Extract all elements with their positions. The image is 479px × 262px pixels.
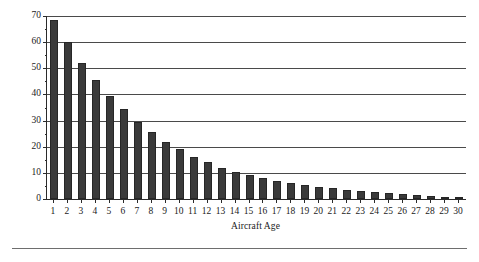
x-tick-15 <box>249 199 250 203</box>
bar <box>273 181 281 199</box>
x-tick-label-14: 14 <box>230 205 240 218</box>
bar <box>50 20 58 199</box>
x-tick-label-5: 5 <box>106 205 111 218</box>
x-tick-label-17: 17 <box>272 205 282 218</box>
y-tick-label-60: 60 <box>32 37 42 47</box>
bar <box>148 132 156 199</box>
x-tick-29 <box>444 199 445 203</box>
x-tick-24 <box>374 199 375 203</box>
bar <box>120 109 128 199</box>
x-tick-4 <box>95 199 96 203</box>
x-tick-10 <box>179 199 180 203</box>
x-tick-label-25: 25 <box>383 205 393 218</box>
x-tick-label-20: 20 <box>314 205 324 218</box>
x-tick-label-12: 12 <box>202 205 212 218</box>
x-tick-14 <box>235 199 236 203</box>
x-tick-20 <box>318 199 319 203</box>
x-tick-2 <box>67 199 68 203</box>
x-tick-label-1: 1 <box>51 205 56 218</box>
x-tick-22 <box>346 199 347 203</box>
x-tick-label-21: 21 <box>328 205 338 218</box>
y-tick-label-70: 70 <box>32 11 42 21</box>
x-tick-27 <box>416 199 417 203</box>
x-tick-label-10: 10 <box>174 205 184 218</box>
x-tick-17 <box>276 199 277 203</box>
x-tick-label-18: 18 <box>286 205 296 218</box>
bar <box>64 42 72 199</box>
x-tick-23 <box>360 199 361 203</box>
chart-figure: Value ($ millions) 010203040506070 12345… <box>0 0 479 262</box>
y-tick-label-30: 30 <box>32 116 42 126</box>
x-tick-label-7: 7 <box>134 205 139 218</box>
y-tick-label-40: 40 <box>32 90 42 100</box>
x-tick-label-15: 15 <box>244 205 254 218</box>
bar <box>190 157 198 199</box>
x-tick-19 <box>304 199 305 203</box>
x-tick-label-9: 9 <box>162 205 167 218</box>
y-tick-label-0: 0 <box>36 194 41 204</box>
bar <box>134 122 142 199</box>
bar <box>176 149 184 199</box>
x-tick-label-16: 16 <box>258 205 268 218</box>
bar <box>92 80 100 199</box>
x-tick-8 <box>151 199 152 203</box>
bar <box>162 142 170 200</box>
bar <box>301 185 309 199</box>
x-axis-title: Aircraft Age <box>46 221 465 231</box>
bar <box>371 192 379 199</box>
x-tick-label-27: 27 <box>411 205 421 218</box>
x-tick-1 <box>53 199 54 203</box>
bar <box>218 168 226 199</box>
y-tick-label-20: 20 <box>32 142 42 152</box>
x-axis-tick-labels: 1234567891011121314151617181920212223242… <box>46 205 465 219</box>
x-tick-label-19: 19 <box>300 205 310 218</box>
x-tick-25 <box>388 199 389 203</box>
bar <box>357 191 365 199</box>
bar <box>329 188 337 199</box>
x-tick-label-2: 2 <box>65 205 70 218</box>
x-tick-label-28: 28 <box>425 205 435 218</box>
x-tick-18 <box>290 199 291 203</box>
x-tick-6 <box>123 199 124 203</box>
x-tick-label-23: 23 <box>356 205 366 218</box>
x-tick-16 <box>262 199 263 203</box>
x-tick-label-29: 29 <box>439 205 449 218</box>
x-tick-label-13: 13 <box>216 205 226 218</box>
x-tick-11 <box>193 199 194 203</box>
bar-series <box>47 16 466 199</box>
x-tick-label-30: 30 <box>453 205 463 218</box>
x-tick-label-24: 24 <box>369 205 379 218</box>
x-tick-label-6: 6 <box>120 205 125 218</box>
bar <box>246 175 254 199</box>
x-tick-label-8: 8 <box>148 205 153 218</box>
x-tick-12 <box>207 199 208 203</box>
x-tick-21 <box>332 199 333 203</box>
bar <box>78 63 86 199</box>
bar <box>287 183 295 199</box>
y-tick-label-10: 10 <box>32 168 42 178</box>
x-tick-26 <box>402 199 403 203</box>
x-tick-5 <box>109 199 110 203</box>
bar <box>315 187 323 199</box>
plot-area: 010203040506070 <box>46 16 465 199</box>
bar <box>106 96 114 199</box>
x-tick-label-4: 4 <box>93 205 98 218</box>
x-tick-label-11: 11 <box>188 205 197 218</box>
bar <box>259 178 267 199</box>
bottom-rule <box>12 248 467 249</box>
x-tick-7 <box>137 199 138 203</box>
x-tick-13 <box>221 199 222 203</box>
bar <box>232 172 240 199</box>
x-tick-30 <box>458 199 459 203</box>
bar <box>343 190 351 199</box>
x-tick-28 <box>430 199 431 203</box>
x-tick-9 <box>165 199 166 203</box>
x-tick-label-26: 26 <box>397 205 407 218</box>
x-tick-3 <box>81 199 82 203</box>
y-tick-label-50: 50 <box>32 64 42 74</box>
x-tick-label-22: 22 <box>342 205 352 218</box>
x-tick-label-3: 3 <box>79 205 84 218</box>
x-axis-ticks <box>46 199 465 204</box>
bar <box>204 162 212 199</box>
